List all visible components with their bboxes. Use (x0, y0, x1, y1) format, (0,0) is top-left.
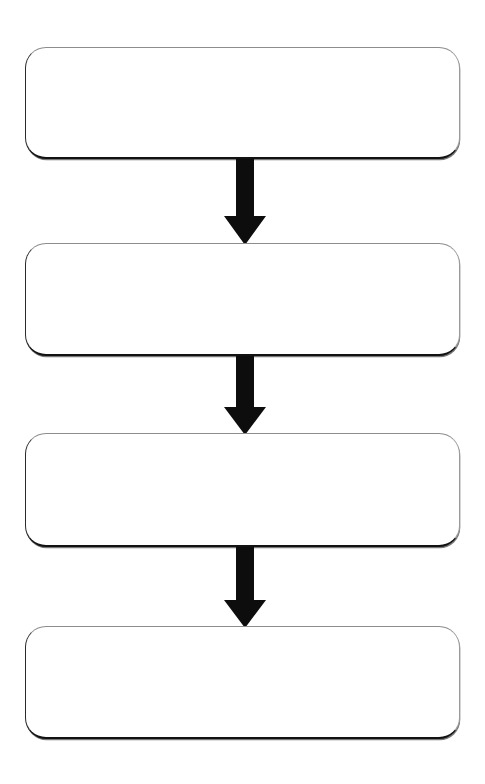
flowchart-node-4[interactable] (25, 626, 460, 739)
flowchart-node-1[interactable] (25, 47, 460, 159)
flowchart-node-3[interactable] (25, 433, 460, 547)
flowchart-arrow-down-icon-2 (224, 356, 266, 435)
flowchart-canvas (0, 0, 485, 784)
arrow-down-glyph (224, 547, 266, 628)
flowchart-node-2[interactable] (25, 243, 460, 356)
arrow-down-glyph (224, 159, 266, 245)
flowchart-arrow-down-icon-3 (224, 547, 266, 628)
arrow-down-glyph (224, 356, 266, 435)
flowchart-arrow-down-icon-1 (224, 159, 266, 245)
